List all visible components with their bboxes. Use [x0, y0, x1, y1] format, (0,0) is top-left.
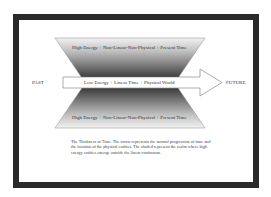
- bottom-high-energy-region: [55, 88, 205, 128]
- top-high-energy-region: [55, 38, 205, 78]
- top-region-label: High Energy + Non-Linear-Non-Physical + …: [72, 45, 187, 50]
- figure-caption: The Thickness of Time. The arrow represe…: [71, 139, 211, 155]
- bottom-region-label: High Energy + Non-Linear-Non-Physical + …: [72, 115, 187, 120]
- thickness-of-time-diagram: [0, 0, 271, 197]
- past-label: PAST: [32, 80, 44, 85]
- arrow-label: Low Energy + Linear Time + Physical Worl…: [84, 80, 174, 85]
- future-label: FUTURE: [226, 80, 245, 85]
